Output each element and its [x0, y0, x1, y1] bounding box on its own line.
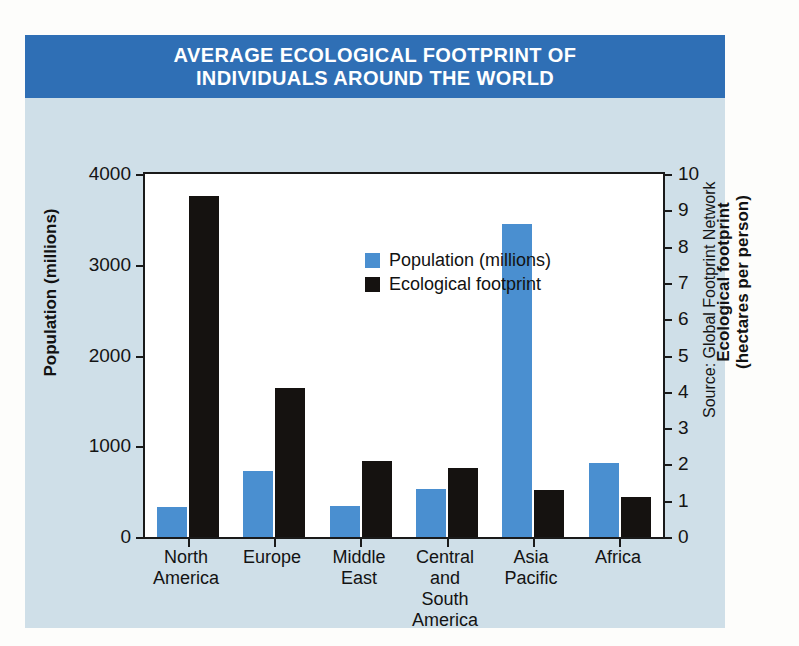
bar-population-north-america — [157, 507, 187, 537]
x-tick-2 — [360, 537, 362, 547]
y-left-label-0: 0 — [120, 526, 131, 548]
y-right-tick-10 — [663, 174, 672, 176]
bar-footprint-north-america — [189, 196, 219, 537]
y-right-tick-1 — [663, 501, 672, 503]
y-right-tick-0 — [663, 537, 672, 539]
y-axis-left-title: Population (millions) — [41, 163, 60, 423]
y-right-tick-6 — [663, 319, 672, 321]
chart-title-bar: AVERAGE ECOLOGICAL FOOTPRINT OF INDIVIDU… — [25, 35, 725, 98]
y-right-tick-5 — [663, 356, 672, 358]
legend-label-population: Population (millions) — [389, 250, 551, 271]
population-swatch-icon — [365, 253, 380, 268]
y-axis-right-title: Ecological footprint (hectares per perso… — [714, 152, 752, 412]
y-right-label-2: 2 — [678, 453, 689, 475]
y-right-label-5: 5 — [678, 345, 689, 367]
x-tick-5 — [619, 537, 621, 547]
footprint-swatch-icon — [365, 277, 380, 292]
legend-label-footprint: Ecological footprint — [389, 274, 541, 295]
y-right-tick-7 — [663, 283, 672, 285]
y-left-tick-2000 — [136, 356, 145, 358]
bar-footprint-europe — [275, 388, 305, 537]
figure-card: AVERAGE ECOLOGICAL FOOTPRINT OF INDIVIDU… — [25, 35, 725, 628]
y-left-tick-1000 — [136, 446, 145, 448]
bar-footprint-asia-pacific — [534, 490, 564, 537]
bar-footprint-middle-east — [362, 461, 392, 537]
y-left-tick-0 — [136, 537, 145, 539]
y-right-label-10: 10 — [678, 163, 699, 185]
y-right-tick-4 — [663, 392, 672, 394]
legend-item-footprint: Ecological footprint — [365, 274, 551, 295]
y-right-label-9: 9 — [678, 199, 689, 221]
x-tick-1 — [274, 537, 276, 547]
y-right-label-0: 0 — [678, 526, 689, 548]
bar-footprint-central-south-america — [448, 468, 478, 537]
y-right-label-7: 7 — [678, 272, 689, 294]
page-canvas: AVERAGE ECOLOGICAL FOOTPRINT OF INDIVIDU… — [0, 0, 799, 646]
y-right-label-1: 1 — [678, 490, 689, 512]
y-right-label-8: 8 — [678, 236, 689, 258]
x-tick-3 — [447, 537, 449, 547]
y-left-label-3000: 3000 — [89, 254, 131, 276]
y-left-label-2000: 2000 — [89, 345, 131, 367]
bar-population-middle-east — [330, 506, 360, 537]
bar-population-africa — [589, 463, 619, 537]
chart-legend: Population (millions) Ecological footpri… — [365, 250, 551, 298]
y-right-label-4: 4 — [678, 381, 689, 403]
source-credit: Source: Global Footprint Network — [701, 188, 719, 418]
y-left-label-4000: 4000 — [89, 163, 131, 185]
bar-population-central-south-america — [416, 489, 446, 537]
y-left-tick-4000 — [136, 174, 145, 176]
y-left-label-1000: 1000 — [89, 435, 131, 457]
y-left-tick-3000 — [136, 265, 145, 267]
bar-footprint-africa — [621, 497, 651, 537]
y-right-tick-9 — [663, 210, 672, 212]
y-right-label-3: 3 — [678, 417, 689, 439]
y-right-tick-8 — [663, 247, 672, 249]
bar-population-europe — [243, 471, 273, 537]
y-right-label-6: 6 — [678, 308, 689, 330]
y-right-tick-3 — [663, 428, 672, 430]
y-right-tick-2 — [663, 464, 672, 466]
page-title: AVERAGE ECOLOGICAL FOOTPRINT OF INDIVIDU… — [174, 44, 577, 89]
x-tick-4 — [533, 537, 535, 547]
x-tick-0 — [188, 537, 190, 547]
x-category-label-africa: Africa — [558, 547, 678, 568]
plot-area: 0 1000 2000 3000 4000 0 1 2 3 — [143, 172, 665, 539]
legend-item-population: Population (millions) — [365, 250, 551, 271]
chart-area: Population (millions) Ecological footpri… — [25, 98, 725, 628]
